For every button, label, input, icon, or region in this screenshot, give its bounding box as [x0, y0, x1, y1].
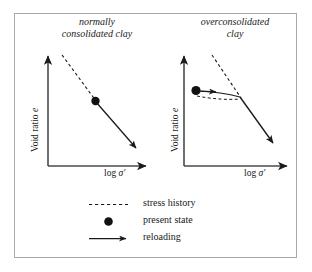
stress-history-line-left [62, 55, 96, 101]
legend-item-reloading: reloading [86, 230, 246, 247]
legend-label-present-state: present state [143, 214, 193, 225]
axes-right [184, 56, 287, 166]
legend-item-stress-history: stress history [86, 196, 246, 213]
axes-left [48, 56, 146, 166]
solid-arrow-icon [86, 230, 136, 247]
stress-history-swelling-right [197, 96, 240, 99]
legend-label-stress-history: stress history [143, 197, 196, 208]
legend-label-reloading: reloading [143, 231, 181, 242]
reloading-arrow-right [201, 91, 216, 92]
legend-item-present-state: present state [86, 213, 246, 230]
series-left [62, 55, 136, 148]
reloading-path-right [196, 91, 240, 97]
legend: stress history present state [86, 196, 246, 247]
present-state-dot-left [91, 97, 99, 105]
filled-dot-icon [86, 213, 136, 230]
stress-history-line-right [212, 55, 241, 98]
present-state-dot-right [191, 86, 200, 95]
reloading-arrow-left [96, 102, 136, 148]
series-right [191, 55, 273, 143]
virgin-compression-arrow-right [240, 97, 273, 143]
figure-container: normally consolidated clay overconsolida… [0, 0, 312, 272]
dashed-line-icon [86, 196, 136, 213]
